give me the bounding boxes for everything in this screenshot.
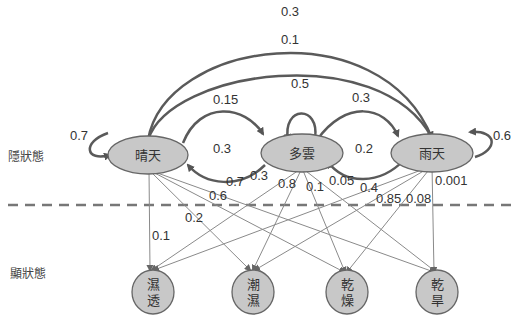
emission-sunny-soggy xyxy=(149,170,150,270)
label-cloudy-sunny: 0.3 xyxy=(213,141,231,156)
arc-sunny-self xyxy=(90,133,110,156)
node-damp-line1: 潮 xyxy=(247,277,260,292)
node-dry[interactable]: 乾 燥 xyxy=(326,270,368,314)
label-rainy-dryish: 0.001 xyxy=(435,173,468,188)
node-rainy[interactable]: 雨天 xyxy=(391,134,473,172)
label-sunny-soggy: 0.1 xyxy=(152,228,170,243)
node-sunny[interactable]: 晴天 xyxy=(108,136,188,174)
label-sunny-rainy-inner: 0.1 xyxy=(281,32,299,47)
label-rainy-damp: 0.85 xyxy=(376,191,401,206)
node-soggy-line2: 透 xyxy=(147,293,160,308)
label-rainy-self: 0.6 xyxy=(493,128,511,143)
hidden-states-label: 隱狀態 xyxy=(8,149,44,164)
label-cloudy-damp: 0.8 xyxy=(278,176,296,191)
label-sunny-self: 0.7 xyxy=(70,128,88,143)
label-cloudy-dryish: 0.05 xyxy=(329,173,354,188)
arc-cloudy-rainy xyxy=(317,111,398,140)
node-sunny-label: 晴天 xyxy=(135,148,161,163)
hmm-diagram: 隱狀態 顯狀態 0.3 0.1 0.15 0.3 0.5 0.3 0.2 0. xyxy=(0,0,523,325)
emission-rainy-dryish xyxy=(432,166,434,272)
label-sunny-dry: 0.6 xyxy=(209,188,227,203)
label-sunny-rainy-outer: 0.3 xyxy=(281,4,299,19)
node-damp[interactable]: 潮 濕 xyxy=(232,270,274,314)
node-dryish-line2: 旱 xyxy=(431,293,444,308)
node-dryish-line1: 乾 xyxy=(431,277,444,292)
long-arcs xyxy=(148,53,432,140)
label-rainy-dry: 0.08 xyxy=(406,191,431,206)
node-damp-line2: 濕 xyxy=(247,293,260,308)
node-cloudy[interactable]: 多雲 xyxy=(261,134,343,172)
label-sunny-damp: 0.2 xyxy=(185,210,203,225)
node-rainy-label: 雨天 xyxy=(419,146,445,161)
node-soggy[interactable]: 濕 透 xyxy=(132,270,174,314)
label-cloudy-self: 0.5 xyxy=(291,76,309,91)
label-cloudy-rainy: 0.3 xyxy=(352,90,370,105)
label-cloudy-soggy: 0.3 xyxy=(250,168,268,183)
node-dryish[interactable]: 乾 旱 xyxy=(416,270,458,314)
node-cloudy-label: 多雲 xyxy=(289,146,315,161)
label-rainy-cloudy: 0.2 xyxy=(355,141,373,156)
arc-sunny-cloudy xyxy=(183,111,263,143)
node-soggy-line1: 濕 xyxy=(147,277,160,292)
label-sunny-dryish: 0.7 xyxy=(226,174,244,189)
label-cloudy-dry: 0.1 xyxy=(306,179,324,194)
observed-states-label: 顯狀態 xyxy=(10,266,46,281)
label-sunny-cloudy: 0.15 xyxy=(213,92,238,107)
node-dry-line2: 燥 xyxy=(341,293,354,308)
node-dry-line1: 乾 xyxy=(341,277,354,292)
